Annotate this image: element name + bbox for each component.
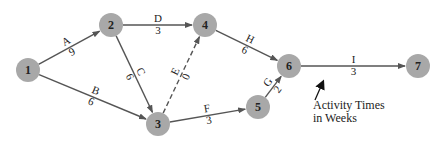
node-label: 4 [202,18,208,32]
activity-f: F3 [170,102,245,127]
network-diagram: A9B6C6D3E0F3G2H6I3 1234567 Activity Time… [0,0,445,143]
activity-time-label: 6 [86,95,96,108]
activity-e: E0 [163,37,199,113]
activity-c: C6 [116,36,152,112]
event-node-6: 6 [277,54,301,78]
activity-a: A9 [39,31,100,64]
activity-h: H6 [216,30,278,60]
event-node-5: 5 [246,95,270,119]
activity-i: I3 [301,53,405,77]
activity-time-label: 6 [240,43,251,56]
note-line-2: in Weeks [313,112,385,125]
node-label: 6 [286,59,292,73]
activity-name-label: D [154,12,162,24]
event-node-4: 4 [193,13,217,37]
activity-name-label: F [203,102,211,115]
activity-d: D3 [123,12,192,36]
node-label: 2 [108,18,114,32]
activity-g: G2 [260,75,283,97]
event-node-1: 1 [16,58,40,82]
event-node-7: 7 [406,54,430,78]
node-label: 5 [255,100,261,114]
activity-time-label: 3 [155,24,161,36]
activity-name-label: I [352,53,356,65]
activity-time-label: 3 [351,65,357,77]
activity-time-label: 0 [179,71,192,82]
node-label: 3 [155,117,161,131]
event-node-3: 3 [146,112,170,136]
node-label: 1 [25,63,31,77]
node-label: 7 [415,59,421,73]
activity-time-label: 9 [66,45,77,58]
event-node-2: 2 [99,13,123,37]
activity-time-label: 6 [124,71,137,82]
activity-times-note: Activity Times in Weeks [313,99,385,125]
activity-time-label: 2 [271,83,284,95]
activity-b: B6 [39,75,146,119]
